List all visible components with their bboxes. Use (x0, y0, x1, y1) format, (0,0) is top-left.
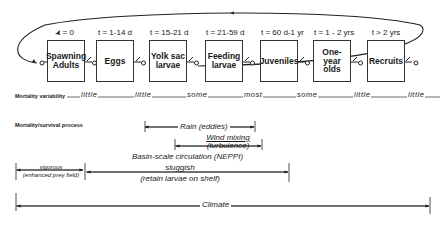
sluggish-line-2: (retain larvae on shelf) (135, 175, 225, 183)
mortality-variability-label: Mortality variability (15, 93, 67, 99)
stage-time-feeding-larvae: t = 21-59 d (206, 28, 242, 37)
process-wind-mixing: Wind mixing (turbulence) (198, 134, 258, 150)
process-climate: Climate (200, 201, 231, 209)
stage-box-yolk-sac-larvae: Yolk sac larvae (149, 40, 187, 82)
vigorous-line-2: (enhanced prey field) (18, 172, 84, 178)
stage-box-eggs: Eggs (96, 40, 134, 82)
variability-one-year-olds: little (353, 90, 371, 99)
process-rain: Rain (eddies) (178, 123, 230, 131)
process-vigorous: vigorous (enhanced prey field) (18, 164, 84, 178)
stage-box-spawning-adults: Spawning Adults (47, 40, 85, 82)
variability-spawning-adults: little (80, 90, 98, 99)
variability-yolk-sac-larvae: some (186, 90, 208, 99)
stage-time-one-year-olds: t = 1 - 2 yrs (314, 28, 350, 37)
variability-juveniles: some (296, 90, 318, 99)
stage-box-juveniles: Juveniles (260, 40, 298, 82)
vigorous-line-1: vigorous (18, 164, 84, 170)
variability-recruits: little (407, 90, 425, 99)
stage-time-yolk-sac-larvae: t = 15-21 d (150, 28, 186, 37)
stage-time-eggs: t = 1-14 d (97, 28, 133, 37)
variability-eggs: little (134, 90, 152, 99)
sluggish-line-1: sluggish (135, 164, 225, 172)
stage-box-feeding-larvae: Feeding larvae (205, 40, 243, 82)
mortality-process-label: Mortality/survival process (15, 122, 83, 128)
stage-time-recruits: t > 2 yrs (368, 28, 404, 37)
stage-time-spawning-adults: t = 0 (48, 28, 84, 37)
stage-box-recruits: Recruits (367, 40, 405, 82)
process-basin-circulation-title: Basin-scale circulation (NEPPI) (132, 153, 243, 161)
variability-feeding-larvae: most (243, 90, 263, 99)
stage-box-one-year-olds: One-year olds (313, 40, 351, 82)
stage-time-juveniles: t = 60 d-1 yr (261, 28, 297, 37)
process-sluggish: sluggish (retain larvae on shelf) (135, 164, 225, 183)
wind-mixing-line-2: (turbulence) (198, 142, 258, 150)
